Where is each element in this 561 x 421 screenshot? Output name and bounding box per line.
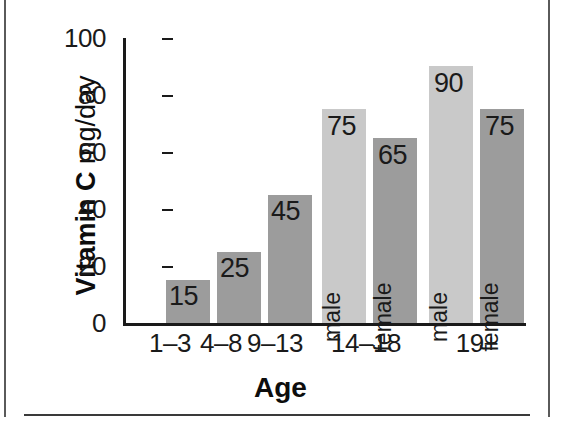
bar-age-14-18-female: 65 female	[373, 138, 417, 323]
y-tick-label-100: 100	[54, 25, 106, 51]
bar-group: 15 25 45 75 male 65 female 90 male 75	[126, 38, 526, 323]
y-tick-label-80: 80	[54, 82, 106, 108]
bar-value-label: 65	[378, 142, 407, 169]
plot-area: Vitamin C mg/day 100 80 60 40 20 0 15	[0, 0, 561, 421]
bar-age-9-13: 45	[268, 195, 312, 323]
bar-value-label: 75	[485, 113, 514, 140]
bar-age-19plus-female: 75 female	[480, 109, 524, 323]
x-tick-label-14-18: 14–18	[318, 330, 414, 356]
bar-age-14-18-male: 75 male	[322, 109, 366, 323]
x-axis-title: Age	[0, 372, 561, 404]
y-tick-label-20: 20	[54, 253, 106, 279]
bar-age-19plus-male: 90 male	[429, 66, 473, 323]
x-tick-label-19plus: 19+	[432, 330, 522, 356]
bar-value-label: 15	[169, 283, 198, 310]
x-axis-ticks: 1–3 4–8 9–13 14–18 19+	[0, 330, 561, 370]
y-tick-label-60: 60	[54, 139, 106, 165]
chart-figure: Vitamin C mg/day 100 80 60 40 20 0 15	[0, 0, 561, 421]
x-tick-label-9-13: 9–13	[241, 330, 309, 356]
y-tick-label-40: 40	[54, 196, 106, 222]
x-tick-label-1-3: 1–3	[142, 330, 198, 356]
bar-age-4-8: 25	[217, 252, 261, 323]
bar-value-label: 45	[271, 198, 300, 225]
bar-value-label: 90	[434, 70, 463, 97]
bar-value-label: 75	[327, 113, 356, 140]
bar-age-1-3: 15	[166, 280, 210, 323]
bar-value-label: 25	[220, 255, 249, 282]
